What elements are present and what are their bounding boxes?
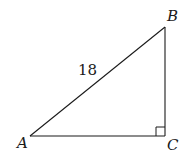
vertex-label-c: C: [167, 136, 179, 154]
side-ab-hypotenuse: [30, 27, 165, 136]
vertex-label-b: B: [166, 7, 178, 25]
right-angle-marker: [156, 127, 165, 136]
vertex-label-a: A: [15, 134, 28, 152]
triangle-diagram: A B C 18: [0, 0, 187, 158]
hypotenuse-length-label: 18: [78, 61, 97, 79]
